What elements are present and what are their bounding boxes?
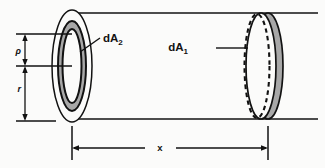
r-label: r <box>17 84 21 94</box>
dA2-label-base: dA <box>103 32 118 44</box>
rho-label: ρ <box>15 46 22 56</box>
x-label: x <box>157 142 163 153</box>
dA1-label-base: dA <box>168 41 183 53</box>
cylinder-diagram: dA2 dA1 ρ r x <box>0 0 325 168</box>
dA1-label-subscript: 1 <box>184 47 189 56</box>
far-face-disk-front <box>246 13 276 119</box>
dA2-label-subscript: 2 <box>118 38 123 47</box>
figure-container: dA2 dA1 ρ r x <box>0 0 325 168</box>
